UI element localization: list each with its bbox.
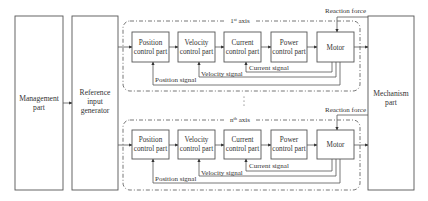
svg-text:control part: control part <box>180 48 213 56</box>
position-control-block-nth: Position control part <box>132 130 169 159</box>
reaction-force-label-1st: Reaction force <box>325 7 366 15</box>
current-control-block-nth: Current control part <box>224 130 261 159</box>
reaction-force-arrow-1st <box>337 17 368 32</box>
velocity-control-block-nth: Velocity control part <box>178 130 215 159</box>
svg-text:Power: Power <box>280 39 299 47</box>
mechanism-part-block: Mechanism part <box>368 16 414 190</box>
svg-text:Position: Position <box>139 39 163 47</box>
management-part-block: Management part <box>15 16 63 190</box>
svg-text:Power: Power <box>280 136 299 144</box>
position-signal-label-nth: Position signal <box>155 175 196 183</box>
servo-control-diagram: Management part Reference input generato… <box>0 0 428 201</box>
motor-block-nth: Motor <box>317 130 354 159</box>
svg-text:control part: control part <box>134 48 167 56</box>
reference-label-line3: generator <box>81 106 110 115</box>
current-signal-label-nth: Current signal <box>249 162 289 170</box>
svg-text:Velocity: Velocity <box>185 39 209 47</box>
svg-text:Current: Current <box>232 136 254 144</box>
axis-label-1st: 1st axis <box>230 17 250 26</box>
power-control-block-1st: Power control part <box>271 32 307 62</box>
axis-group-nth: nth axis Position control part Velocity … <box>118 106 368 190</box>
position-control-block-1st: Position control part <box>132 32 169 62</box>
position-signal-label-1st: Position signal <box>155 76 196 84</box>
svg-text:Motor: Motor <box>327 44 346 52</box>
svg-text:control part: control part <box>134 145 167 153</box>
ellipsis-dots <box>243 96 244 105</box>
reference-label-line1: Reference <box>80 88 111 97</box>
axis-group-1st: 1st axis Position control part Velocity … <box>118 7 368 91</box>
svg-text:control part: control part <box>272 48 305 56</box>
reference-label-line2: input <box>87 97 104 106</box>
svg-text:control part: control part <box>180 145 213 153</box>
current-control-block-1st: Current control part <box>224 32 261 62</box>
svg-text:Current: Current <box>232 39 254 47</box>
management-label-line1: Management <box>19 94 60 103</box>
reaction-force-label-nth: Reaction force <box>325 106 366 114</box>
velocity-signal-label-nth: Velocity signal <box>201 169 243 177</box>
reference-input-generator-block: Reference input generator <box>72 16 118 190</box>
power-control-block-nth: Power control part <box>271 130 307 159</box>
svg-text:Position: Position <box>139 136 163 144</box>
current-signal-label-1st: Current signal <box>249 64 289 72</box>
svg-text:control part: control part <box>226 145 259 153</box>
motor-block-1st: Motor <box>317 32 354 62</box>
svg-text:control part: control part <box>272 145 305 153</box>
management-label-line2: part <box>33 103 46 112</box>
velocity-control-block-1st: Velocity control part <box>178 32 215 62</box>
svg-text:Motor: Motor <box>327 141 346 149</box>
axis-label-nth: nth axis <box>230 116 250 125</box>
mechanism-label-line2: part <box>385 98 398 107</box>
svg-text:control part: control part <box>226 48 259 56</box>
velocity-signal-label-1st: Velocity signal <box>201 70 243 78</box>
mechanism-label-line1: Mechanism <box>373 89 409 98</box>
reaction-force-arrow-nth <box>337 115 368 130</box>
svg-text:Velocity: Velocity <box>185 136 209 144</box>
